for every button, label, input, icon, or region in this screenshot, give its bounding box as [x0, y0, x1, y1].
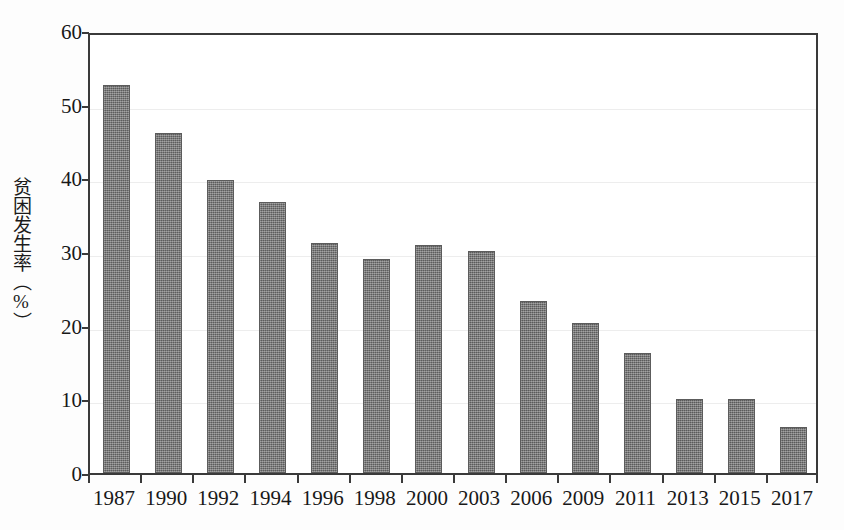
y-tick-label: 50 — [42, 96, 82, 117]
x-tick-mark — [140, 475, 142, 483]
bar-chart-figure: 贫困发生率（%） 0102030405060 19871990199219941… — [0, 0, 844, 530]
y-tick-label: 0 — [42, 464, 82, 485]
y-tick-label: 20 — [42, 317, 82, 338]
x-tick-mark — [609, 475, 611, 483]
bar — [155, 133, 182, 473]
x-tick-mark — [505, 475, 507, 483]
y-tick-label: 60 — [42, 22, 82, 43]
y-tick-label: 40 — [42, 169, 82, 190]
bar — [311, 243, 338, 473]
bar — [207, 180, 234, 473]
x-tick-mark — [349, 475, 351, 483]
bar — [676, 399, 703, 473]
x-tick-mark — [88, 475, 90, 483]
x-tick-mark — [662, 475, 664, 483]
x-tick-mark — [401, 475, 403, 483]
y-tick-label: 10 — [42, 390, 82, 411]
bar — [780, 427, 807, 473]
bar — [624, 353, 651, 473]
bar — [103, 85, 130, 473]
y-tick-label: 30 — [42, 243, 82, 264]
bar — [363, 259, 390, 473]
x-tick-mark — [714, 475, 716, 483]
x-tick-mark — [192, 475, 194, 483]
plot-area — [88, 33, 818, 475]
x-tick-mark — [766, 475, 768, 483]
bar — [259, 202, 286, 473]
x-tick-label: 2017 — [758, 486, 826, 510]
y-axis-title: 贫困发生率（%） — [6, 33, 36, 475]
x-tick-mark — [244, 475, 246, 483]
x-tick-mark — [453, 475, 455, 483]
bar — [415, 245, 442, 473]
bar — [572, 323, 599, 473]
x-tick-mark — [557, 475, 559, 483]
x-tick-mark — [297, 475, 299, 483]
y-axis-ticks: 0102030405060 — [34, 33, 82, 475]
x-axis-ticks: 1987199019921994199619982000200320062009… — [88, 475, 818, 530]
bar — [468, 251, 495, 473]
bar — [520, 301, 547, 473]
bars-layer — [90, 35, 816, 473]
x-tick-mark — [816, 475, 818, 483]
bar — [728, 399, 755, 473]
